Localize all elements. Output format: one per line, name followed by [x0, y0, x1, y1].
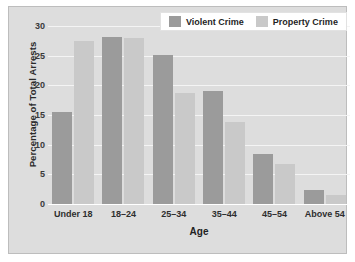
legend-label: Property Crime	[273, 17, 338, 27]
x-tick-label: 25–34	[149, 207, 199, 223]
chart-figure: Percentage of Total Arrests 051015202530…	[0, 0, 355, 262]
bar-group	[199, 26, 249, 204]
y-tick-label-15: 15	[19, 111, 45, 120]
bar-group	[48, 26, 98, 204]
bar[interactable]	[326, 195, 346, 204]
chart-legend: Violent CrimeProperty Crime	[160, 12, 347, 31]
bar[interactable]	[253, 154, 273, 204]
x-tick-label: 18–24	[98, 207, 148, 223]
plot-area	[48, 26, 350, 204]
bar[interactable]	[203, 91, 223, 204]
bar[interactable]	[225, 122, 245, 204]
bar-group	[149, 26, 199, 204]
x-tick-label: 45–54	[249, 207, 299, 223]
y-axis-tick-labels: 051015202530	[15, 26, 45, 204]
bar[interactable]	[124, 38, 144, 204]
legend-entry[interactable]: Property Crime	[256, 16, 338, 27]
chart-plot-plate: Percentage of Total Arrests 051015202530…	[8, 6, 347, 254]
legend-entry[interactable]: Violent Crime	[169, 16, 244, 27]
x-tick-label: 35–44	[199, 207, 249, 223]
legend-swatch-icon	[256, 16, 268, 27]
bar-group	[249, 26, 299, 204]
y-tick-label-25: 25	[19, 52, 45, 61]
bar[interactable]	[102, 37, 122, 204]
x-tick-label: Under 18	[48, 207, 98, 223]
bar[interactable]	[74, 41, 94, 204]
y-tick-label-20: 20	[19, 81, 45, 90]
y-tick-label-30: 30	[19, 22, 45, 31]
bar-group	[98, 26, 148, 204]
bar[interactable]	[275, 164, 295, 204]
bar-group	[300, 26, 350, 204]
x-axis-tick-labels: Under 1818–2425–3435–4445–54Above 54	[48, 207, 350, 223]
bar[interactable]	[52, 112, 72, 204]
legend-swatch-icon	[169, 16, 181, 27]
bar[interactable]	[153, 55, 173, 204]
x-axis-title: Age	[48, 226, 350, 237]
bar-groups	[48, 26, 350, 204]
x-axis-line	[48, 204, 350, 205]
bar[interactable]	[304, 190, 324, 204]
legend-label: Violent Crime	[186, 17, 244, 27]
y-tick-label-0: 0	[19, 200, 45, 209]
y-tick-label-5: 5	[19, 170, 45, 179]
x-tick-label: Above 54	[300, 207, 350, 223]
bar[interactable]	[175, 93, 195, 204]
y-tick-label-10: 10	[19, 141, 45, 150]
